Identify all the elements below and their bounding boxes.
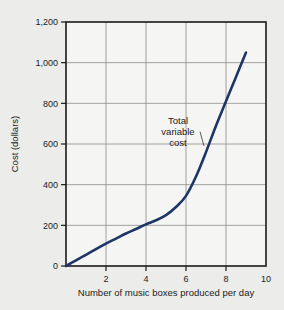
x-tick-label: 6 — [183, 274, 188, 284]
annotation-line-3: cost — [169, 137, 187, 148]
annotation-line-1: Total — [168, 115, 188, 126]
y-tick-label: 800 — [43, 99, 58, 109]
y-tick-label: 1,000 — [35, 58, 58, 68]
chart-figure: 02004006008001,0001,200 246810 Total var… — [0, 0, 284, 310]
y-tick-label: 0 — [53, 261, 58, 271]
variable-cost-line-chart: 02004006008001,0001,200 246810 Total var… — [0, 0, 284, 310]
x-tick-label: 10 — [261, 274, 271, 284]
y-tick-label: 1,200 — [35, 17, 58, 27]
y-tick-label: 400 — [43, 180, 58, 190]
x-tick-label: 2 — [103, 274, 108, 284]
y-tick-label: 600 — [43, 139, 58, 149]
x-tick-label: 8 — [223, 274, 228, 284]
y-axis-title: Cost (dollars) — [9, 116, 20, 173]
y-tick-label: 200 — [43, 221, 58, 231]
x-axis-title: Number of music boxes produced per day — [78, 287, 255, 298]
x-tick-label: 4 — [143, 274, 148, 284]
annotation-line-2: variable — [161, 126, 194, 137]
